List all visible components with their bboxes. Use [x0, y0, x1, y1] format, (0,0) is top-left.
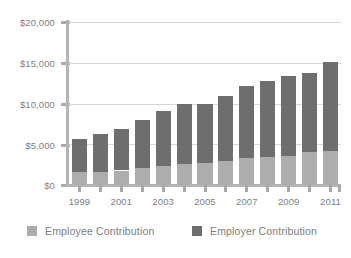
bar-2007 — [239, 86, 254, 185]
bar-segment-employer — [323, 62, 338, 151]
x-axis-tick — [308, 185, 311, 192]
x-axis-label: 2003 — [141, 196, 185, 207]
plot-area — [69, 22, 341, 185]
bar-2006 — [218, 96, 233, 185]
bar-segment-employee — [302, 152, 317, 185]
x-axis-tick — [162, 185, 165, 192]
bar-2001 — [114, 129, 129, 185]
bar-2002 — [135, 120, 150, 185]
x-axis-tick — [183, 185, 186, 192]
bar-segment-employee — [177, 164, 192, 185]
legend-swatch-employee — [27, 226, 37, 236]
bar-2003 — [156, 111, 171, 185]
bar-segment-employee — [281, 156, 296, 185]
legend-item-employer[interactable]: Employer Contribution — [192, 225, 317, 237]
chart-legend: Employee Contribution Employer Contribut… — [0, 222, 351, 246]
x-axis-label: 1999 — [57, 196, 101, 207]
bar-segment-employee — [114, 171, 129, 186]
x-axis-tick — [266, 185, 269, 192]
x-axis-tick — [245, 185, 248, 192]
y-axis-label: $15,000 — [0, 58, 55, 69]
bar-segment-employee — [323, 151, 338, 185]
bar-segment-employer — [135, 120, 150, 168]
y-axis-label: $10,000 — [0, 99, 55, 110]
bar-2009 — [281, 76, 296, 185]
bar-2010 — [302, 73, 317, 185]
x-axis-label: 2011 — [309, 196, 351, 207]
y-axis-label: $5,000 — [0, 140, 55, 151]
bar-segment-employer — [93, 134, 108, 172]
bar-segment-employer — [302, 73, 317, 153]
x-axis-tick — [78, 185, 81, 192]
gridline — [69, 22, 341, 23]
bar-segment-employee — [239, 158, 254, 185]
x-axis-label: 2001 — [99, 196, 143, 207]
y-axis-label: $20,000 — [0, 17, 55, 28]
x-axis-tick — [224, 185, 227, 192]
bar-segment-employer — [239, 86, 254, 158]
bar-segment-employee — [218, 161, 233, 185]
bar-segment-employee — [156, 166, 171, 185]
x-axis-tick — [99, 185, 102, 192]
bar-segment-employer — [260, 81, 275, 157]
x-axis-tick — [329, 185, 332, 192]
x-axis-tick — [204, 185, 207, 192]
x-axis-label: 2005 — [183, 196, 227, 207]
bar-segment-employee — [197, 163, 212, 185]
bar-segment-employee — [72, 172, 87, 185]
bar-segment-employer — [177, 104, 192, 164]
legend-label-employer: Employer Contribution — [210, 225, 317, 237]
bar-1999 — [72, 139, 87, 185]
bar-segment-employer — [156, 111, 171, 166]
stacked-bar-chart: $20,000 $15,000 $10,000 $5,000 $0 199920… — [0, 0, 351, 258]
bar-2000 — [93, 134, 108, 185]
bar-segment-employee — [93, 172, 108, 185]
legend-swatch-employer — [192, 226, 202, 236]
gridline — [69, 63, 341, 64]
y-axis-label: $0 — [0, 180, 55, 191]
x-axis-tick — [141, 185, 144, 192]
x-axis-label: 2007 — [225, 196, 269, 207]
bar-segment-employer — [197, 104, 212, 163]
x-axis-label: 2009 — [267, 196, 311, 207]
bar-segment-employee — [260, 157, 275, 185]
legend-label-employee: Employee Contribution — [45, 225, 154, 237]
bar-2011 — [323, 62, 338, 185]
x-axis-tick — [287, 185, 290, 192]
x-axis-tick — [120, 185, 123, 192]
bar-segment-employer — [114, 129, 129, 171]
legend-item-employee[interactable]: Employee Contribution — [27, 225, 154, 237]
bar-2004 — [177, 104, 192, 186]
x-axis-tick-end — [338, 185, 341, 192]
bar-segment-employer — [72, 139, 87, 172]
bar-2005 — [197, 104, 212, 186]
bar-segment-employer — [218, 96, 233, 161]
bar-2008 — [260, 81, 275, 185]
bar-segment-employer — [281, 76, 296, 157]
bar-segment-employee — [135, 168, 150, 185]
